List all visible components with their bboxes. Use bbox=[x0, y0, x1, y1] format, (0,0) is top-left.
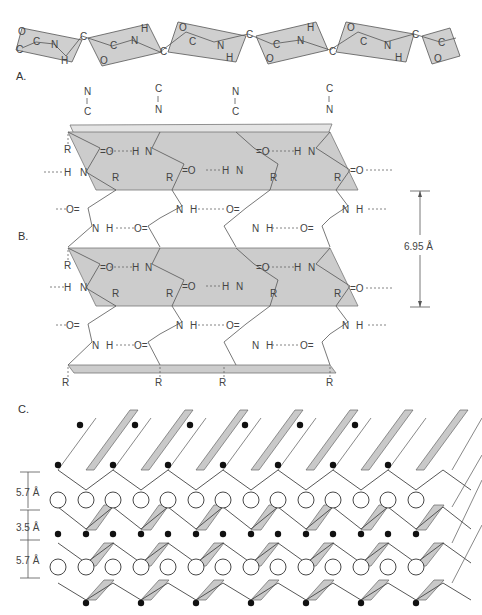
sheet-edge bbox=[68, 365, 336, 373]
spacing-label: 5.7 Å bbox=[16, 554, 40, 566]
panel-b-sheet: R =O H N H N R R =O H N =O H N R R =O O=… bbox=[44, 124, 392, 388]
panel-c-spacing-scale: 5.7 Å 3.5 Å 5.7 Å bbox=[16, 472, 40, 578]
side-group-circle bbox=[243, 492, 259, 508]
nitrogen-label: N bbox=[308, 146, 315, 157]
alpha-carbon-dot bbox=[242, 422, 248, 428]
alpha-carbon: C bbox=[246, 29, 253, 40]
atom-label: H bbox=[395, 52, 402, 63]
atom-label: N bbox=[297, 35, 304, 46]
direction-marker: N C bbox=[232, 86, 239, 117]
panel-b-label: B. bbox=[18, 230, 28, 242]
atom-label: C bbox=[110, 40, 117, 51]
carbonyl-label: O= bbox=[226, 320, 240, 331]
pleat-plane bbox=[86, 410, 138, 470]
direction-marker: C N bbox=[326, 83, 333, 115]
side-group-circle bbox=[133, 559, 149, 575]
nitrogen-label: N bbox=[342, 320, 349, 331]
side-group-circle bbox=[215, 559, 231, 575]
hydrogen-label: H bbox=[132, 262, 139, 273]
atom-label: H bbox=[61, 55, 68, 66]
side-group-circle bbox=[270, 559, 286, 575]
side-group-circle bbox=[188, 492, 204, 508]
hydrogen-label: H bbox=[356, 204, 363, 215]
alpha-carbon: C bbox=[329, 46, 336, 57]
marker-top: C bbox=[326, 83, 333, 94]
hydrogen-label: H bbox=[266, 223, 273, 234]
alpha-carbon-dot bbox=[303, 600, 309, 606]
marker-top: N bbox=[84, 86, 91, 97]
alpha-carbon-dot bbox=[110, 462, 116, 468]
carbonyl-label: O= bbox=[300, 340, 314, 351]
alpha-carbon-dot bbox=[187, 422, 193, 428]
atom-label: O bbox=[347, 22, 355, 33]
alpha-carbon-dot bbox=[358, 531, 364, 537]
marker-top: C bbox=[155, 83, 162, 94]
alpha-carbon: C bbox=[160, 46, 167, 57]
atom-label: C bbox=[273, 39, 280, 50]
hydrogen-label: H bbox=[132, 146, 139, 157]
r-group-label: R bbox=[112, 288, 119, 299]
alpha-carbon-dot bbox=[385, 462, 391, 468]
side-group-circle bbox=[353, 492, 369, 508]
side-group-circle bbox=[380, 559, 396, 575]
alpha-carbon-dot bbox=[138, 531, 144, 537]
direction-marker: C N bbox=[155, 83, 162, 115]
alpha-carbon-dot bbox=[193, 531, 199, 537]
nitrogen-label: N bbox=[236, 165, 243, 176]
panel-c-pleated-sheet bbox=[50, 410, 482, 606]
r-group-label: R bbox=[112, 172, 119, 183]
nitrogen-label: N bbox=[342, 204, 349, 215]
side-group-circle bbox=[408, 492, 424, 508]
alpha-carbon-dot bbox=[220, 462, 226, 468]
marker-top: N bbox=[232, 86, 239, 97]
side-group-circle bbox=[78, 492, 94, 508]
pleat-plane bbox=[416, 410, 468, 470]
alpha-carbon-dot bbox=[165, 462, 171, 468]
r-group-label: R bbox=[166, 172, 173, 183]
nitrogen-label: N bbox=[80, 282, 87, 293]
alpha-carbon-dot bbox=[55, 531, 61, 537]
r-group-label: R bbox=[64, 144, 71, 155]
alpha-carbon-dot bbox=[303, 531, 309, 537]
hydrogen-label: H bbox=[356, 320, 363, 331]
side-group-circle bbox=[160, 492, 176, 508]
side-group-circle bbox=[353, 559, 369, 575]
atom-label: H bbox=[307, 22, 314, 33]
atom-label: C bbox=[438, 37, 445, 48]
panel-a-label: A. bbox=[16, 70, 26, 82]
side-group-circle bbox=[105, 492, 121, 508]
hydrogen-label: H bbox=[106, 340, 113, 351]
alpha-carbon-dot bbox=[132, 422, 138, 428]
atom-label: O bbox=[434, 53, 442, 64]
alpha-carbon-dot bbox=[358, 600, 364, 606]
marker-bottom: N bbox=[326, 104, 333, 115]
alpha-carbon-dot bbox=[275, 531, 281, 537]
alpha-carbon-dot bbox=[193, 600, 199, 606]
alpha-carbon-dot bbox=[297, 422, 303, 428]
pleat-plane bbox=[141, 410, 193, 470]
spacing-dimension: 6.95 Å bbox=[404, 191, 433, 307]
pleat-plane bbox=[361, 410, 413, 470]
hydrogen-label: H bbox=[294, 146, 301, 157]
beta-sheet-figure: O C C N H C O C N H C O C N H C O C N H … bbox=[0, 0, 482, 615]
side-group-circle bbox=[408, 559, 424, 575]
r-group-label: R bbox=[64, 260, 71, 271]
alpha-carbon-dot bbox=[83, 531, 89, 537]
hydrogen-label: H bbox=[294, 262, 301, 273]
nitrogen-label: N bbox=[252, 223, 259, 234]
peptide-plane bbox=[16, 28, 82, 62]
alpha-carbon-dot bbox=[385, 531, 391, 537]
nitrogen-label: N bbox=[145, 262, 152, 273]
spacing-label: 6.95 Å bbox=[404, 240, 433, 252]
side-group-circle bbox=[105, 559, 121, 575]
arrow-down-icon bbox=[418, 301, 422, 307]
atom-label: O bbox=[18, 26, 26, 37]
hydrogen-label: H bbox=[222, 165, 229, 176]
atom-label: N bbox=[131, 35, 138, 46]
alpha-carbon-dot bbox=[248, 600, 254, 606]
pleat-plane bbox=[196, 410, 248, 470]
alpha-carbon-dot bbox=[110, 531, 116, 537]
carbonyl-label: =O bbox=[100, 146, 114, 157]
side-group-circle bbox=[270, 492, 286, 508]
carbonyl-label: =O bbox=[350, 283, 364, 294]
